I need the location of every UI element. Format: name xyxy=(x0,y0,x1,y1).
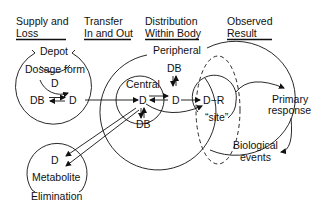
svg-text:In and Out: In and Out xyxy=(84,27,133,39)
header-transfer: Transfer In and Out xyxy=(84,15,133,40)
site-circle-lower xyxy=(228,101,236,118)
site-label: “site” xyxy=(205,111,229,123)
elimination-compartment: D Metabolite Elimination xyxy=(27,143,87,202)
elimination-label: Elimination xyxy=(31,190,83,202)
svg-text:Transfer: Transfer xyxy=(84,15,123,27)
biological-events-label-2: events xyxy=(240,151,271,163)
primary-response-label-2: response xyxy=(268,104,311,116)
peripheral-db: DB xyxy=(167,62,182,74)
peripheral-circle xyxy=(100,55,216,170)
peripheral-d: D xyxy=(172,94,180,106)
header-observed-result: Observed Result xyxy=(227,15,273,40)
depot-d: D xyxy=(69,94,77,106)
svg-text:Within Body: Within Body xyxy=(145,27,202,39)
dosage-form-label: Dosage form xyxy=(25,63,85,75)
depot-label: Depot xyxy=(40,45,68,57)
to-biological-events-arrow xyxy=(281,118,292,152)
elimination-d: D xyxy=(51,154,59,166)
svg-text:Loss: Loss xyxy=(16,27,38,39)
header-distribution: Distribution Within Body xyxy=(145,15,202,40)
depot-inner-d: D xyxy=(51,77,59,89)
central-db: DB xyxy=(136,118,151,130)
metabolite-label: Metabolite xyxy=(32,171,81,183)
elimination-arrow-d xyxy=(66,108,136,156)
peripheral-label: Peripheral xyxy=(153,44,201,56)
depot-db: DB xyxy=(30,94,45,106)
biological-events-label-1: Biological xyxy=(233,139,278,151)
svg-text:Result: Result xyxy=(227,27,257,39)
central-d: D xyxy=(139,94,147,106)
svg-text:Supply and: Supply and xyxy=(16,15,69,27)
peripheral-tissue: DB D xyxy=(167,62,200,106)
site-compartment: D−R “site” xyxy=(192,75,236,123)
elimination-arrow-metabolite xyxy=(66,110,139,166)
depot-compartment: Depot Dosage form D DB D xyxy=(16,45,92,124)
central-label: Central xyxy=(126,78,160,90)
drug-receptor-complex: D−R xyxy=(203,94,225,106)
svg-text:Distribution: Distribution xyxy=(145,15,198,27)
pharmacokinetic-diagram: Supply and Loss Transfer In and Out Dist… xyxy=(0,0,332,210)
header-supply-loss: Supply and Loss xyxy=(16,15,69,40)
svg-text:Observed: Observed xyxy=(227,15,273,27)
elimination-circle xyxy=(27,143,87,190)
to-primary-arrow xyxy=(236,82,284,92)
